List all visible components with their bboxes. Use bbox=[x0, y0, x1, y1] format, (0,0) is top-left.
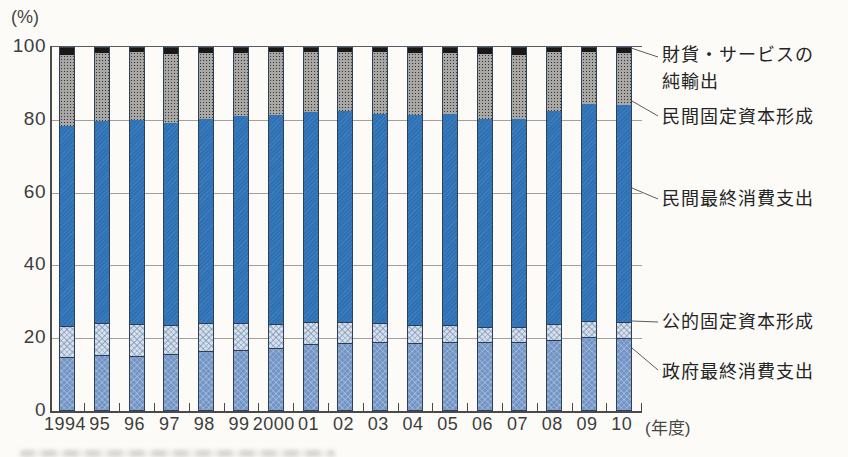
segment-government_consumption bbox=[304, 344, 318, 410]
segment-public_fixed bbox=[443, 325, 457, 342]
y-tick-label-0: 0 bbox=[0, 398, 46, 422]
stacked-bar-02 bbox=[337, 47, 353, 411]
segment-government_consumption bbox=[443, 342, 457, 410]
x-axis-tick bbox=[432, 403, 433, 411]
stacked-bar-08 bbox=[546, 47, 562, 411]
x-tick-label-03: 03 bbox=[368, 414, 389, 435]
segment-private_consumption bbox=[617, 105, 631, 321]
stacked-bar-10 bbox=[616, 47, 632, 411]
segment-private_fixed bbox=[373, 52, 387, 113]
segment-public_fixed bbox=[130, 324, 144, 357]
segment-public_fixed bbox=[478, 327, 492, 343]
segment-private_fixed bbox=[582, 52, 596, 104]
x-tick-label-95: 95 bbox=[89, 414, 110, 435]
segment-private_fixed bbox=[547, 52, 561, 112]
x-tick-label-04: 04 bbox=[402, 414, 423, 435]
x-axis-tick bbox=[328, 403, 329, 411]
y-tick-label-40: 40 bbox=[0, 252, 46, 276]
x-axis-tick bbox=[398, 403, 399, 411]
x-tick-label-07: 07 bbox=[507, 414, 528, 435]
x-tick-label-98: 98 bbox=[194, 414, 215, 435]
stacked-bar-09 bbox=[581, 47, 597, 411]
x-axis-tick bbox=[154, 403, 155, 411]
legend-net-exports-line1: 財貨・サービスの bbox=[662, 45, 814, 65]
segment-private_consumption bbox=[304, 112, 318, 322]
stacked-bar-03 bbox=[372, 47, 388, 411]
legend-label-private-fixed-capital: 民間固定資本形成 bbox=[662, 104, 814, 131]
segment-public_fixed bbox=[269, 324, 283, 348]
figure-canvas: (%) (年度) 財貨・サービスの 純輸出 民間固定資本形成 民間最終消費支出 … bbox=[0, 0, 848, 457]
segment-private_consumption bbox=[512, 119, 526, 326]
segment-private_consumption bbox=[373, 114, 387, 324]
segment-public_fixed bbox=[304, 322, 318, 344]
segment-government_consumption bbox=[199, 351, 213, 410]
segment-private_fixed bbox=[234, 53, 248, 116]
segment-government_consumption bbox=[373, 342, 387, 410]
x-axis-tick bbox=[467, 403, 468, 411]
segment-private_fixed bbox=[617, 53, 631, 105]
segment-public_fixed bbox=[582, 321, 596, 338]
legend-label-private-consumption: 民間最終消費支出 bbox=[662, 186, 814, 213]
segment-public_fixed bbox=[164, 325, 178, 354]
segment-private_consumption bbox=[130, 120, 144, 324]
stacked-bar-98 bbox=[198, 47, 214, 411]
segment-government_consumption bbox=[408, 343, 422, 410]
segment-government_consumption bbox=[269, 348, 283, 410]
y-tick-label-60: 60 bbox=[0, 180, 46, 204]
x-tick-label-96: 96 bbox=[124, 414, 145, 435]
segment-private_fixed bbox=[199, 53, 213, 119]
x-axis-tick bbox=[293, 403, 294, 411]
segment-government_consumption bbox=[95, 355, 109, 410]
stacked-bar-96 bbox=[129, 47, 145, 411]
x-axis-tick bbox=[606, 403, 607, 411]
stacked-bar-06 bbox=[477, 47, 493, 411]
segment-private_fixed bbox=[130, 52, 144, 120]
stacked-bar-97 bbox=[163, 47, 179, 411]
segment-public_fixed bbox=[617, 322, 631, 338]
segment-private_consumption bbox=[338, 111, 352, 322]
stacked-bar-1994 bbox=[59, 47, 75, 411]
y-axis-unit-label: (%) bbox=[11, 7, 39, 28]
x-tick-label-05: 05 bbox=[437, 414, 458, 435]
segment-public_fixed bbox=[338, 322, 352, 342]
segment-private_consumption bbox=[408, 115, 422, 325]
segment-private_fixed bbox=[269, 52, 283, 115]
stacked-bar-07 bbox=[511, 47, 527, 411]
segment-private_consumption bbox=[164, 123, 178, 325]
segment-private_consumption bbox=[443, 114, 457, 325]
segment-public_fixed bbox=[234, 323, 248, 350]
segment-private_fixed bbox=[338, 52, 352, 111]
segment-private_consumption bbox=[269, 115, 283, 324]
x-tick-label-97: 97 bbox=[159, 414, 180, 435]
segment-private_fixed bbox=[443, 53, 457, 113]
segment-private_fixed bbox=[95, 53, 109, 121]
segment-private_consumption bbox=[95, 121, 109, 323]
segment-private_fixed bbox=[408, 53, 422, 116]
segment-private_fixed bbox=[478, 54, 492, 118]
segment-private_consumption bbox=[478, 119, 492, 327]
segment-government_consumption bbox=[617, 338, 631, 410]
x-tick-label-10: 10 bbox=[611, 414, 632, 435]
segment-government_consumption bbox=[130, 356, 144, 410]
x-tick-label-09: 09 bbox=[576, 414, 597, 435]
stacked-bar-95 bbox=[94, 47, 110, 411]
segment-private_consumption bbox=[547, 111, 561, 323]
x-tick-label-08: 08 bbox=[542, 414, 563, 435]
segment-public_fixed bbox=[512, 327, 526, 343]
x-axis-tick bbox=[224, 403, 225, 411]
y-tick-label-100: 100 bbox=[0, 34, 46, 58]
segment-private_fixed bbox=[60, 55, 74, 126]
segment-private_fixed bbox=[164, 54, 178, 123]
stacked-bar-01 bbox=[303, 47, 319, 411]
x-axis-tick bbox=[502, 403, 503, 411]
segment-private_consumption bbox=[199, 119, 213, 323]
x-axis-tick bbox=[537, 403, 538, 411]
stacked-bar-2000 bbox=[268, 47, 284, 411]
segment-private_consumption bbox=[60, 126, 74, 326]
y-tick-label-20: 20 bbox=[0, 325, 46, 349]
segment-public_fixed bbox=[373, 323, 387, 342]
segment-public_fixed bbox=[60, 326, 74, 357]
stacked-bar-99 bbox=[233, 47, 249, 411]
x-tick-label-01: 01 bbox=[298, 414, 319, 435]
x-axis-tick bbox=[258, 403, 259, 411]
